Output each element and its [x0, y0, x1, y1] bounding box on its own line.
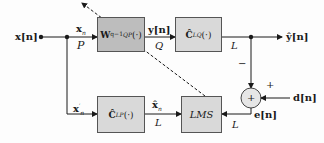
block-c-lq-sub: LQ — [193, 31, 202, 38]
dim-l-mid: L — [155, 118, 162, 128]
signal-y-hat-n: ŷ[n] — [286, 32, 309, 42]
summer-minus-label: − — [238, 59, 246, 69]
dim-l-top: L — [231, 41, 238, 51]
block-lms: LMS — [181, 96, 222, 133]
diagram-wires — [0, 0, 324, 143]
block-c-lp-label: Ĉ — [108, 110, 115, 120]
block-c-lq-label: Ĉ — [186, 30, 193, 40]
dim-q: Q — [155, 41, 163, 51]
block-c-lp: ĈLP (·) — [97, 96, 145, 133]
dim-l-right: L — [232, 120, 239, 130]
block-c-lq: ĈLQ (·) — [175, 17, 222, 52]
signal-x-n: xn — [76, 24, 86, 38]
block-w-arg: (·) — [132, 30, 142, 40]
block-c-lp-arg: (·) — [124, 110, 134, 120]
signal-d-n: d[n] — [293, 93, 317, 103]
block-w-sub: QP — [123, 31, 132, 38]
block-w-sup: q−1 — [110, 30, 123, 37]
signal-x-n-prime: x′n — [73, 101, 84, 118]
signal-e-n: e[n] — [254, 110, 277, 120]
block-c-lq-arg: (·) — [202, 30, 212, 40]
signal-x-hat-n: x̂n — [152, 100, 162, 114]
block-c-lp-sub: LP — [116, 111, 124, 118]
summer-plus-label: + — [266, 80, 274, 90]
summer-symbol: + — [247, 93, 255, 103]
signal-y-n: y[n] — [148, 25, 171, 35]
block-diagram: Wq−1QP (·) ĈLQ (·) ĈLP (·) LMS x[n] xn P… — [0, 0, 324, 143]
block-w-filter: Wq−1QP (·) — [97, 17, 145, 52]
dim-p: P — [77, 41, 84, 51]
block-w-label: W — [100, 30, 110, 40]
input-label: x[n] — [15, 32, 38, 42]
block-lms-label: LMS — [190, 109, 214, 120]
